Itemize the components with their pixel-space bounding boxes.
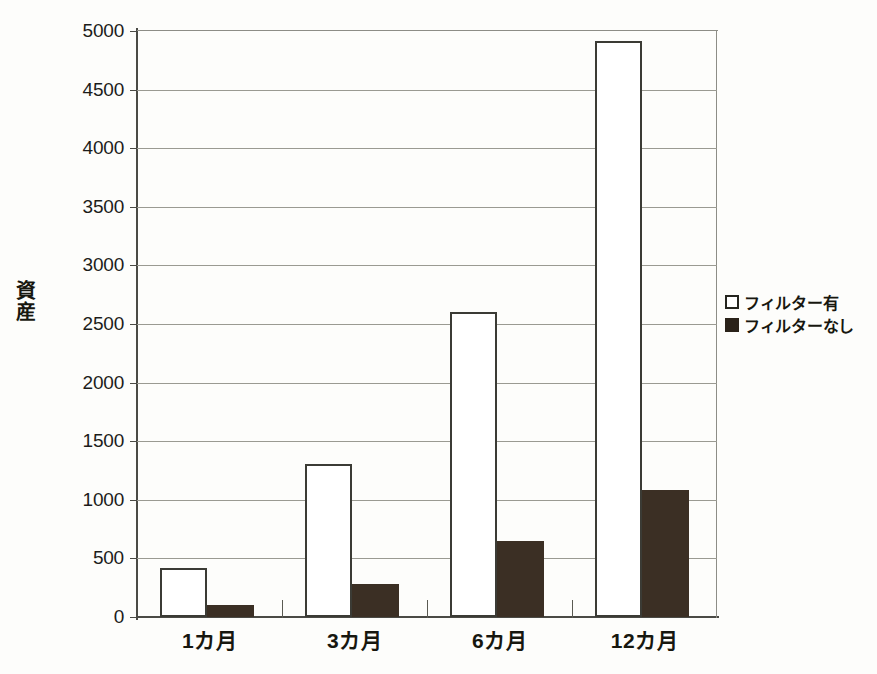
bar[interactable] <box>497 541 544 617</box>
chart-container: 資産 0500100015002000250030003500400045005… <box>0 0 877 674</box>
y-tick-label: 3000 <box>62 254 124 276</box>
bar[interactable] <box>642 490 689 617</box>
x-tick-label: 3カ月 <box>327 624 382 654</box>
y-tick-mark <box>130 441 137 442</box>
legend-swatch-dark-icon <box>725 318 739 332</box>
x-tick-label: 6カ月 <box>472 624 527 654</box>
y-tick-mark <box>130 31 137 32</box>
bar-group <box>282 31 427 617</box>
y-tick-mark <box>130 265 137 266</box>
legend-item[interactable]: フィルター有 <box>725 290 873 313</box>
y-tick-label: 1500 <box>62 430 124 452</box>
bar[interactable] <box>160 568 207 617</box>
plot-area <box>137 31 717 617</box>
y-axis-ticks: 0500100015002000250030003500400045005000 <box>62 0 124 674</box>
legend-label: フィルターなし <box>744 313 854 337</box>
x-tick-label: 1カ月 <box>182 624 237 654</box>
bar-group <box>572 31 717 617</box>
y-tick-label: 2500 <box>62 313 124 335</box>
bar-group <box>427 31 572 617</box>
y-tick-label: 4500 <box>62 79 124 101</box>
y-tick-label: 0 <box>62 606 124 628</box>
x-axis-divider <box>427 600 428 618</box>
y-tick-label: 5000 <box>62 20 124 42</box>
x-axis-divider <box>572 600 573 618</box>
y-tick-mark <box>130 148 137 149</box>
y-tick-mark <box>130 383 137 384</box>
bar[interactable] <box>450 312 497 617</box>
x-axis-divider <box>282 600 283 618</box>
x-tick-label: 12カ月 <box>611 624 678 654</box>
y-tick-mark <box>130 324 137 325</box>
y-axis-title: 資産 <box>6 280 34 322</box>
y-tick-label: 4000 <box>62 137 124 159</box>
legend-item[interactable]: フィルターなし <box>725 313 873 336</box>
bar[interactable] <box>352 584 399 617</box>
y-tick-mark <box>130 90 137 91</box>
legend-label: フィルター有 <box>744 290 838 314</box>
y-tick-label: 500 <box>62 547 124 569</box>
chart-legend: フィルター有フィルターなし <box>725 290 873 336</box>
y-tick-mark <box>130 207 137 208</box>
y-tick-mark <box>130 617 137 618</box>
y-tick-label: 3500 <box>62 196 124 218</box>
legend-swatch-light-icon <box>725 295 739 309</box>
y-tick-mark <box>130 500 137 501</box>
bar[interactable] <box>207 605 254 617</box>
bar-group <box>137 31 282 617</box>
y-tick-label: 2000 <box>62 372 124 394</box>
bar[interactable] <box>305 464 352 617</box>
y-tick-mark <box>130 558 137 559</box>
bar[interactable] <box>595 41 642 617</box>
y-tick-label: 1000 <box>62 489 124 511</box>
